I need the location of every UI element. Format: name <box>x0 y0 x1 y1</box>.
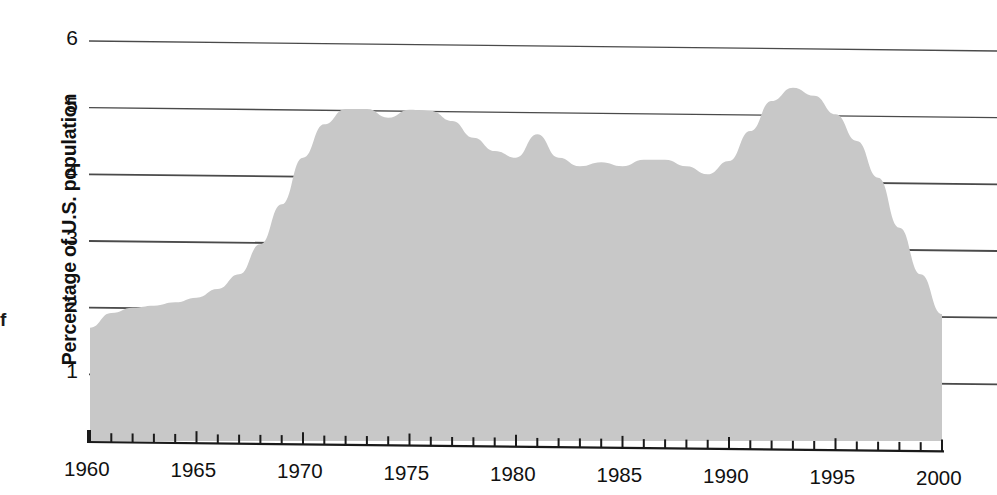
chart-figure: f Percentage of U.S. population 123456 1… <box>0 0 997 495</box>
area-plot <box>0 0 997 495</box>
gridline-6 <box>89 41 997 51</box>
area-series-fill <box>90 88 942 441</box>
gridline-5 <box>89 108 997 118</box>
